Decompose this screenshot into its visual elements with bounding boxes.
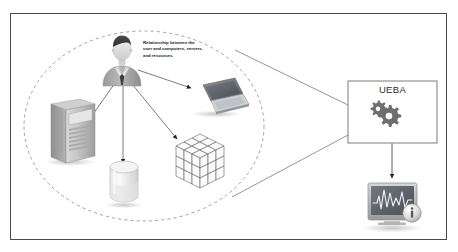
ueba-label: UEBA xyxy=(348,84,437,95)
diagram-frame xyxy=(10,13,447,240)
relationship-note-line-3: and resources. xyxy=(143,53,223,59)
diagram-canvas: Relationship between the user and comput… xyxy=(0,0,458,252)
relationship-note: Relationship between the user and comput… xyxy=(143,40,223,59)
